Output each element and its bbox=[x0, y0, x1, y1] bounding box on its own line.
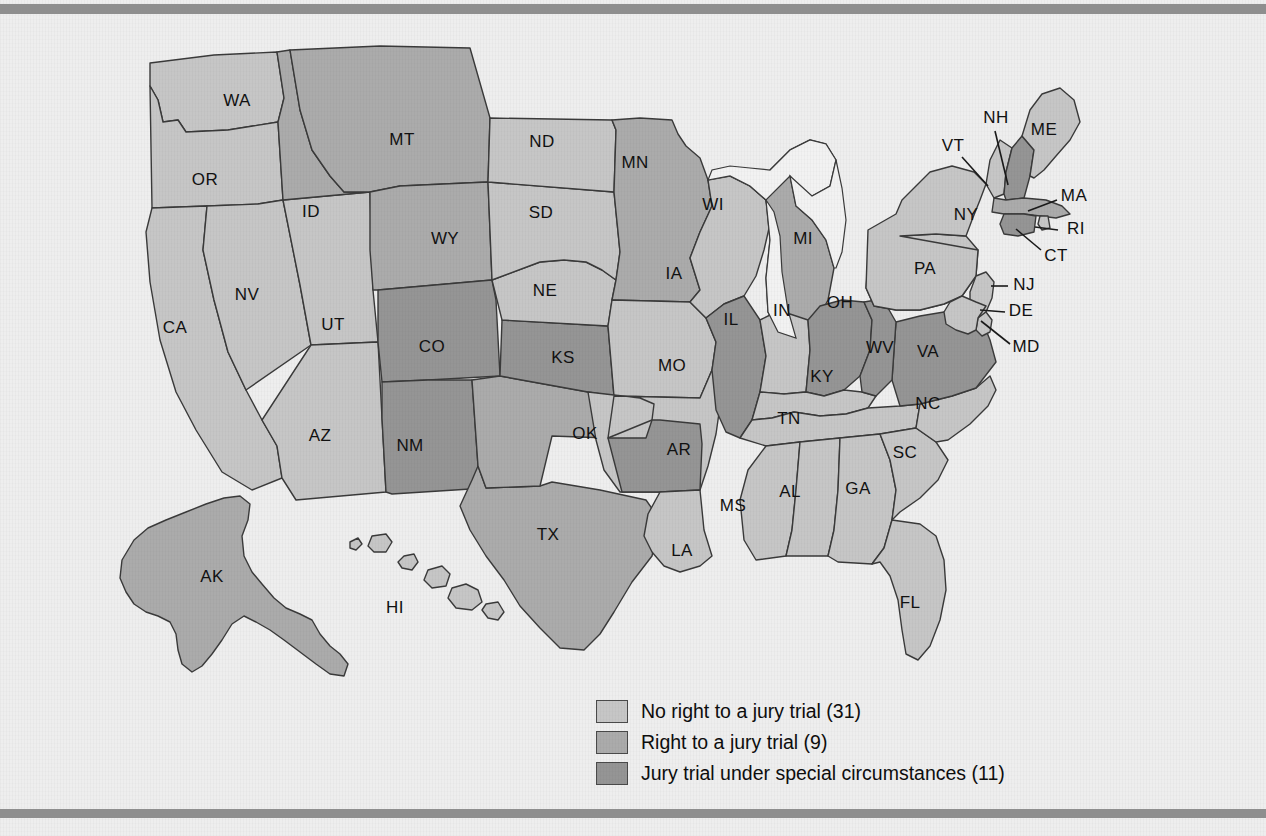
bottom-border-bar bbox=[0, 809, 1266, 818]
legend-swatch-special bbox=[596, 762, 628, 785]
state-ak[interactable] bbox=[120, 496, 348, 676]
state-ct[interactable] bbox=[1000, 214, 1036, 236]
state-wy[interactable] bbox=[370, 182, 492, 290]
state-wa[interactable] bbox=[150, 52, 284, 132]
state-hi[interactable] bbox=[424, 566, 450, 588]
state-hi[interactable] bbox=[368, 534, 392, 552]
map-figure: WAORCANVUTAZIDMTWYCONMTXOKKSNESDNDMNIAMO… bbox=[0, 0, 1266, 836]
state-hi[interactable] bbox=[350, 538, 362, 550]
top-border-bar bbox=[0, 4, 1266, 14]
state-hi[interactable] bbox=[398, 554, 418, 570]
states-group bbox=[120, 46, 1080, 676]
legend-row[interactable]: Right to a jury trial (9) bbox=[596, 727, 1005, 758]
state-co[interactable] bbox=[378, 280, 500, 382]
state-nm[interactable] bbox=[382, 380, 486, 494]
legend-row[interactable]: No right to a jury trial (31) bbox=[596, 696, 1005, 727]
legend-label-special: Jury trial under special circumstances (… bbox=[641, 762, 1005, 785]
legend-label-right: Right to a jury trial (9) bbox=[641, 731, 827, 754]
map-legend: No right to a jury trial (31) Right to a… bbox=[596, 696, 1005, 789]
state-tx[interactable] bbox=[460, 466, 660, 650]
legend-swatch-no-right bbox=[596, 700, 628, 723]
legend-swatch-right bbox=[596, 731, 628, 754]
state-hi[interactable] bbox=[448, 584, 482, 610]
legend-row[interactable]: Jury trial under special circumstances (… bbox=[596, 758, 1005, 789]
legend-label-no-right: No right to a jury trial (31) bbox=[641, 700, 861, 723]
state-la[interactable] bbox=[644, 490, 712, 572]
state-nd[interactable] bbox=[488, 118, 616, 192]
state-ia[interactable] bbox=[608, 300, 716, 398]
state-hi[interactable] bbox=[482, 602, 504, 620]
